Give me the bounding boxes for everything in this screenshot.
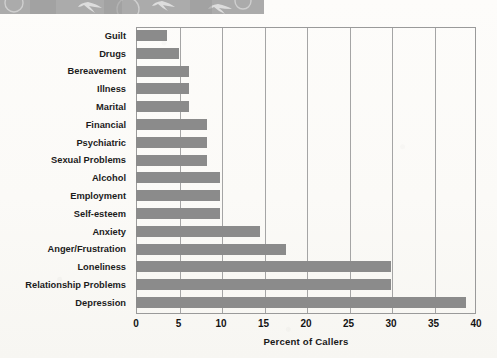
x-tick-30: 30 xyxy=(385,318,396,329)
bar xyxy=(136,66,189,77)
bar xyxy=(136,83,189,94)
bar xyxy=(136,119,207,130)
category-label-text: Bereavement xyxy=(68,66,126,76)
bar-row xyxy=(136,205,476,223)
x-axis-title: Percent of Callers xyxy=(136,336,476,347)
bar-row xyxy=(136,80,476,98)
category-label-text: Drugs xyxy=(99,49,126,59)
x-tick-10: 10 xyxy=(215,318,226,329)
category-label-financial: Financial xyxy=(0,116,132,134)
bar-row xyxy=(136,258,476,276)
x-tick-40: 40 xyxy=(470,318,481,329)
bar xyxy=(136,30,167,41)
category-label-alcohol: Alcohol xyxy=(0,169,132,187)
category-label-text: Illness xyxy=(97,84,126,94)
category-label-text: Sexual Problems xyxy=(51,155,126,165)
bar xyxy=(136,101,189,112)
category-label-text: Marital xyxy=(96,102,126,112)
category-label-anxiety: Anxiety xyxy=(0,223,132,241)
bar-row xyxy=(136,169,476,187)
category-label-guilt: Guilt xyxy=(0,27,132,45)
bar xyxy=(136,279,391,290)
bar-row xyxy=(136,223,476,241)
category-label-text: Guilt xyxy=(105,31,126,41)
category-label-drugs: Drugs xyxy=(0,45,132,63)
bar-row xyxy=(136,45,476,63)
bar-row xyxy=(136,187,476,205)
bar xyxy=(136,137,207,148)
bar xyxy=(136,261,391,272)
category-label-text: Anxiety xyxy=(92,227,126,237)
bar-row xyxy=(136,294,476,312)
x-tick-25: 25 xyxy=(343,318,354,329)
category-axis-labels: GuiltDrugsBereavementIllnessMaritalFinan… xyxy=(0,27,132,314)
category-label-relationship-problems: Relationship Problems xyxy=(0,276,132,294)
bar xyxy=(136,172,220,183)
category-label-bereavement: Bereavement xyxy=(0,63,132,81)
category-label-text: Anger/Frustration xyxy=(47,244,126,254)
bar-row xyxy=(136,63,476,81)
x-tick-15: 15 xyxy=(258,318,269,329)
category-label-employment: Employment xyxy=(0,187,132,205)
category-label-illness: Illness xyxy=(0,80,132,98)
category-label-text: Employment xyxy=(70,191,126,201)
x-tick-0: 0 xyxy=(133,318,139,329)
category-label-text: Alcohol xyxy=(92,173,126,183)
x-tick-35: 35 xyxy=(428,318,439,329)
bar-chart: GuiltDrugsBereavementIllnessMaritalFinan… xyxy=(0,0,497,358)
category-label-self-esteem: Self-esteem xyxy=(0,205,132,223)
bar xyxy=(136,48,179,59)
category-label-text: Self-esteem xyxy=(74,209,126,219)
bar xyxy=(136,297,466,308)
x-tick-20: 20 xyxy=(300,318,311,329)
bar-row xyxy=(136,27,476,45)
bar-row xyxy=(136,152,476,170)
category-label-text: Psychiatric xyxy=(76,138,126,148)
bar xyxy=(136,155,207,166)
category-label-loneliness: Loneliness xyxy=(0,258,132,276)
category-label-marital: Marital xyxy=(0,98,132,116)
bar-row xyxy=(136,98,476,116)
bar xyxy=(136,244,286,255)
category-label-text: Depression xyxy=(75,298,126,308)
bar-row xyxy=(136,276,476,294)
category-label-psychiatric: Psychiatric xyxy=(0,134,132,152)
category-label-anger-frustration: Anger/Frustration xyxy=(0,241,132,259)
category-label-text: Loneliness xyxy=(77,262,126,272)
category-label-depression: Depression xyxy=(0,294,132,312)
bars-container xyxy=(136,27,476,314)
bar-row xyxy=(136,116,476,134)
x-tick-5: 5 xyxy=(176,318,182,329)
bar xyxy=(136,208,220,219)
category-label-text: Financial xyxy=(86,120,126,130)
bar xyxy=(136,226,260,237)
bar-row xyxy=(136,241,476,259)
category-label-sexual-problems: Sexual Problems xyxy=(0,152,132,170)
bar xyxy=(136,190,220,201)
bar-row xyxy=(136,134,476,152)
category-label-text: Relationship Problems xyxy=(25,280,126,290)
